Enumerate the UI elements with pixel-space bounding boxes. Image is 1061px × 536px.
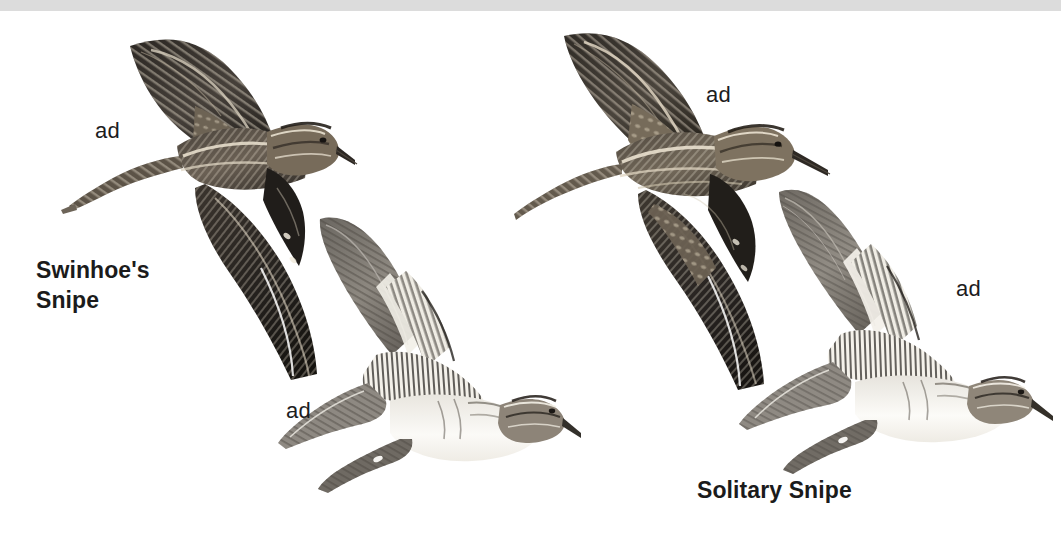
- age-label-solitary-underside: ad: [956, 278, 981, 300]
- age-label-swinhoe-underside: ad: [286, 400, 311, 422]
- species-label-solitary-snipe: Solitary Snipe: [697, 475, 852, 505]
- age-label-swinhoe-upperside: ad: [95, 120, 120, 142]
- bill: [562, 418, 581, 438]
- eye: [775, 141, 782, 146]
- bill: [1031, 399, 1053, 421]
- eye: [320, 137, 327, 142]
- bill: [336, 146, 355, 165]
- illustration-plate: ad ad ad ad Swinhoe's Snipe Solitary Sni…: [0, 0, 1061, 536]
- age-label-solitary-upperside: ad: [706, 84, 731, 106]
- bird-illustration-solitary-underside: [735, 176, 1055, 476]
- species-label-swinhoes-snipe: Swinhoe's Snipe: [36, 255, 150, 316]
- eye: [549, 409, 555, 414]
- top-gray-band: [0, 0, 1061, 11]
- eye: [1018, 390, 1024, 395]
